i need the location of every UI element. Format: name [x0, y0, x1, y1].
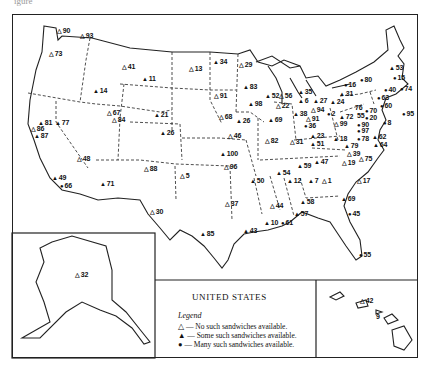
- circle-filled-icon: ●: [60, 183, 63, 189]
- map-marker: ▲47: [314, 158, 328, 166]
- triangle-filled-icon: ▲: [93, 88, 99, 94]
- marker-label: 77: [62, 119, 69, 126]
- triangle-outline-icon: △: [342, 160, 347, 166]
- triangle-filled-icon: ▲: [265, 93, 271, 99]
- map-marker: △17: [357, 177, 370, 185]
- legend-item-none: △ — No such sandwiches available.: [178, 322, 287, 331]
- triangle-outline-icon: △: [225, 201, 230, 207]
- map-marker: △37: [225, 200, 238, 208]
- circle-filled-icon: ●: [304, 123, 307, 129]
- map-marker: △73: [49, 50, 62, 58]
- triangle-filled-icon: ▲: [52, 175, 58, 181]
- map-marker: ▲69: [268, 116, 282, 124]
- map-marker: ●66: [60, 182, 72, 190]
- map-marker: ▲58: [300, 198, 314, 206]
- triangle-filled-icon: ▲: [339, 91, 345, 97]
- map-marker: ▲31: [339, 90, 353, 98]
- triangle-filled-icon: ▲: [333, 136, 339, 142]
- marker-label: 53: [396, 64, 403, 71]
- marker-label: 60: [384, 102, 391, 109]
- marker-label: 94: [317, 106, 324, 113]
- map-marker: ▲6: [298, 97, 308, 105]
- map-marker: ▲53: [389, 64, 403, 72]
- triangle-filled-icon: ▲: [250, 178, 256, 184]
- map-marker: △32: [75, 271, 88, 279]
- marker-label: 8: [387, 119, 391, 126]
- marker-label: 98: [255, 100, 262, 107]
- marker-label: 15: [397, 74, 404, 81]
- alaska-inset-frame: [12, 233, 155, 358]
- map-marker: ▲98: [248, 100, 262, 108]
- map-marker: ▲24: [330, 98, 344, 106]
- map-marker: △93: [80, 32, 93, 40]
- marker-label: 93: [86, 32, 93, 39]
- map-marker: 9: [376, 313, 380, 321]
- triangle-outline-icon: △: [357, 178, 362, 184]
- triangle-filled-icon: ▲: [34, 133, 40, 139]
- marker-label: 66: [64, 182, 71, 189]
- map-marker: △5: [180, 172, 190, 180]
- triangle-filled-icon: ▲: [213, 59, 219, 65]
- triangle-outline-icon: △: [112, 117, 117, 123]
- map-marker: ▲7: [308, 177, 318, 185]
- marker-label: 24: [337, 98, 344, 105]
- map-marker: ▲49: [52, 174, 66, 182]
- triangle-outline-icon: △: [49, 51, 54, 57]
- triangle-filled-icon: ▲: [344, 143, 350, 149]
- marker-label: 35: [305, 88, 312, 95]
- marker-label: 45: [352, 210, 359, 217]
- marker-label: 86: [37, 125, 44, 132]
- circle-filled-icon: ●: [281, 220, 284, 226]
- map-marker: △91: [214, 92, 227, 100]
- triangle-filled-icon: ▲: [314, 159, 320, 165]
- marker-label: 40: [388, 86, 395, 93]
- marker-label: 13: [195, 65, 202, 72]
- marker-label: 46: [234, 132, 241, 139]
- map-marker: ▲43: [243, 227, 257, 235]
- marker-label: 55: [357, 112, 364, 119]
- map-marker: ●61: [281, 219, 293, 227]
- map-marker: ●36: [304, 122, 316, 130]
- marker-label: 55: [363, 251, 370, 258]
- map-marker: ▲62: [372, 133, 386, 141]
- map-marker: ●8: [383, 119, 391, 127]
- marker-label: 6: [305, 97, 309, 104]
- map-marker: △31: [290, 138, 303, 146]
- marker-label: 99: [340, 120, 347, 127]
- marker-label: 50: [257, 177, 264, 184]
- marker-label: 97: [361, 127, 368, 134]
- circle-filled-icon: ●: [400, 86, 403, 92]
- marker-label: 27: [320, 97, 327, 104]
- map-marker: ▲11: [142, 75, 156, 83]
- triangle-filled-icon: ▲: [220, 151, 226, 157]
- marker-label: 80: [364, 76, 371, 83]
- triangle-outline-icon: △: [122, 64, 127, 70]
- map-marker: ▲57: [294, 210, 308, 218]
- legend-item-some: ▲ — Some such sandwiches available.: [178, 331, 297, 340]
- marker-label: 36: [308, 122, 315, 129]
- marker-label: 64: [380, 141, 387, 148]
- marker-label: 29: [245, 61, 252, 68]
- marker-label: 90: [63, 27, 70, 34]
- triangle-filled-icon: ▲: [160, 130, 166, 136]
- marker-label: 11: [149, 75, 156, 82]
- map-marker: △29: [239, 61, 252, 69]
- marker-label: 30: [156, 208, 163, 215]
- map-title: UNITED STATES: [192, 292, 267, 302]
- map-marker: △41: [122, 63, 135, 71]
- marker-label: 23: [317, 132, 324, 139]
- map-marker: ●60: [380, 102, 392, 110]
- triangle-filled-icon: ▲: [142, 76, 148, 82]
- marker-label: 19: [348, 159, 355, 166]
- triangle-filled-icon: ▲: [55, 120, 61, 126]
- map-marker: △82: [265, 137, 278, 145]
- triangle-outline-icon: △: [214, 93, 219, 99]
- circle-filled-icon: ●: [327, 111, 330, 117]
- circle-filled-icon: ●: [380, 103, 383, 109]
- circle-filled-icon: ●: [402, 111, 405, 117]
- triangle-outline-icon: △: [77, 156, 82, 162]
- triangle-filled-icon: ▲: [372, 134, 378, 140]
- map-marker: ▲59: [297, 162, 311, 170]
- triangle-filled-icon: ▲: [341, 196, 347, 202]
- map-marker: ▲100: [220, 150, 238, 158]
